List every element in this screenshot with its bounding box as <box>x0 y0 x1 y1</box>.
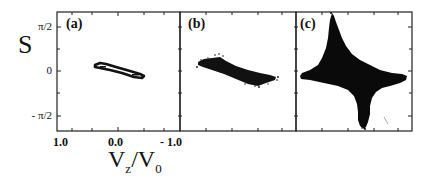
panel-c-data <box>300 12 407 130</box>
plot-area <box>0 0 432 179</box>
panel-b-data <box>196 53 279 88</box>
y-tick-pi-half: π/2 <box>22 20 52 32</box>
stray-mark <box>384 117 388 124</box>
y-axis-label: S <box>18 30 32 60</box>
figure: (a) (b) (c) S π/2 0 - π/2 1.0 0.0 - 1.0 … <box>0 0 432 179</box>
panel-label-b: (b) <box>188 16 205 32</box>
y-tick-neg-pi-half: - π/2 <box>22 109 52 121</box>
x-tick-1: 1.0 <box>53 135 68 150</box>
panel-label-c: (c) <box>300 16 316 32</box>
y-tick-zero: 0 <box>22 64 52 76</box>
panel-label-a: (a) <box>66 16 82 32</box>
x-tick-neg1: - 1.0 <box>160 135 182 150</box>
x-axis-label: Vz/V0 <box>108 146 162 177</box>
panel-a-data <box>95 63 144 78</box>
